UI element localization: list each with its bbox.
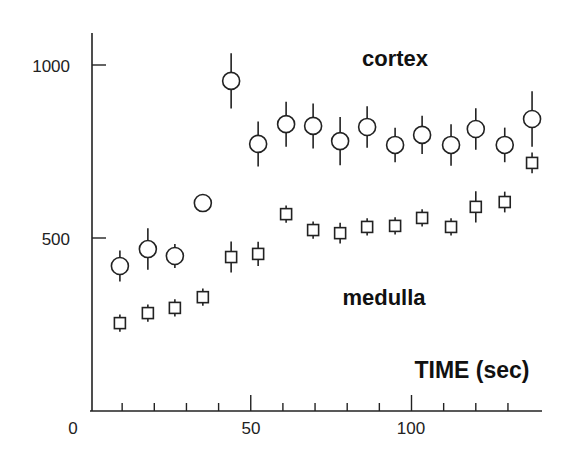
medulla-data-point [142, 304, 153, 321]
y-tick-label-1000: 1000 [32, 57, 70, 76]
circle-marker [166, 247, 183, 264]
medulla-label: medulla [342, 285, 426, 310]
circle-marker [414, 126, 431, 143]
series-cortex [111, 53, 540, 281]
cortex-data-point [332, 117, 349, 165]
square-marker [499, 197, 510, 208]
cortex-data-point [496, 128, 513, 163]
medulla-data-point [197, 289, 208, 306]
x-tick-label-50: 50 [242, 419, 261, 438]
cortex-data-point [223, 53, 240, 108]
circle-marker [359, 118, 376, 135]
cortex-data-point [467, 108, 484, 150]
medulla-data-point [499, 192, 510, 213]
circle-marker [194, 195, 211, 212]
x-tick-label-100: 100 [397, 419, 425, 438]
circle-marker [278, 116, 295, 133]
circle-marker [223, 72, 240, 89]
cortex-data-point [250, 121, 267, 166]
axes [90, 33, 542, 411]
circle-marker [524, 110, 541, 127]
square-marker [253, 248, 264, 259]
cortex-data-point [414, 116, 431, 154]
square-marker [281, 209, 292, 220]
x-ticks [122, 395, 508, 411]
circle-marker [250, 135, 267, 152]
cortex-label: cortex [362, 46, 429, 71]
square-marker [527, 157, 538, 168]
square-marker [362, 221, 373, 232]
square-marker [417, 212, 428, 223]
cortex-data-point [278, 102, 295, 147]
square-marker [114, 318, 125, 329]
circle-marker [139, 241, 156, 258]
medulla-data-point [390, 217, 401, 234]
square-marker [197, 292, 208, 303]
circle-marker [387, 136, 404, 153]
circle-marker [443, 136, 460, 153]
circle-marker [305, 117, 322, 134]
y-ticks [92, 65, 106, 238]
medulla-data-point [527, 153, 538, 174]
medulla-data-point [446, 218, 457, 235]
medulla-data-point [362, 218, 373, 235]
square-marker [446, 221, 457, 232]
cortex-data-point [111, 250, 128, 281]
x-tick-label-0: 0 [68, 419, 77, 438]
cortex-data-point [387, 128, 404, 163]
cortex-data-point [524, 91, 541, 146]
cortex-data-point [166, 244, 183, 268]
square-marker [169, 302, 180, 313]
circle-marker [496, 136, 513, 153]
medulla-data-point [114, 314, 125, 331]
cortex-data-point [194, 194, 211, 211]
square-marker [470, 201, 481, 212]
cortex-data-point [305, 103, 322, 148]
square-marker [335, 228, 346, 239]
square-marker [142, 308, 153, 319]
square-marker [308, 225, 319, 236]
medulla-data-point [281, 205, 292, 222]
square-marker [226, 252, 237, 263]
cortex-data-point [443, 124, 460, 166]
medulla-data-point [335, 223, 346, 244]
medulla-data-point [470, 191, 481, 222]
medulla-data-point [253, 242, 264, 266]
medulla-data-point [169, 299, 180, 316]
medulla-data-point [417, 209, 428, 226]
circle-marker [332, 133, 349, 150]
square-marker [390, 220, 401, 231]
x-axis-title: TIME (sec) [414, 357, 529, 383]
cortex-data-point [139, 228, 156, 270]
medulla-data-point [308, 221, 319, 238]
y-tick-label-500: 500 [42, 230, 70, 249]
medulla-data-point [226, 241, 237, 272]
circle-marker [111, 258, 128, 275]
cortex-data-point [359, 106, 376, 148]
scatter-chart: 1000 500 0 50 100 cortex medulla TIME (s… [0, 0, 588, 463]
series-medulla [114, 153, 537, 332]
circle-marker [467, 121, 484, 138]
